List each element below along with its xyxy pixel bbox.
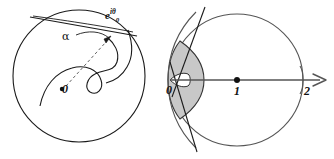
left-angle-label: α	[62, 31, 69, 42]
left-boundary-point-label: eiθ0	[105, 9, 119, 24]
figure-root: 0 α eiθ0 0 1 2	[0, 0, 334, 159]
boundary-point-exp-theta: θ	[112, 8, 116, 16]
right-zero-label: 0	[166, 84, 172, 96]
right-center-dot	[234, 77, 240, 83]
left-unit-circle	[13, 10, 145, 142]
left-tangent-line	[30, 17, 137, 36]
left-origin-label: 0	[62, 83, 68, 95]
left-panel-drawing	[0, 0, 334, 159]
boundary-point-exp-subscript: 0	[116, 16, 119, 23]
left-dashed-radius	[66, 42, 106, 86]
right-two-label: 2	[304, 85, 310, 97]
left-angle-arc	[76, 32, 109, 38]
right-one-label: 1	[234, 85, 240, 97]
